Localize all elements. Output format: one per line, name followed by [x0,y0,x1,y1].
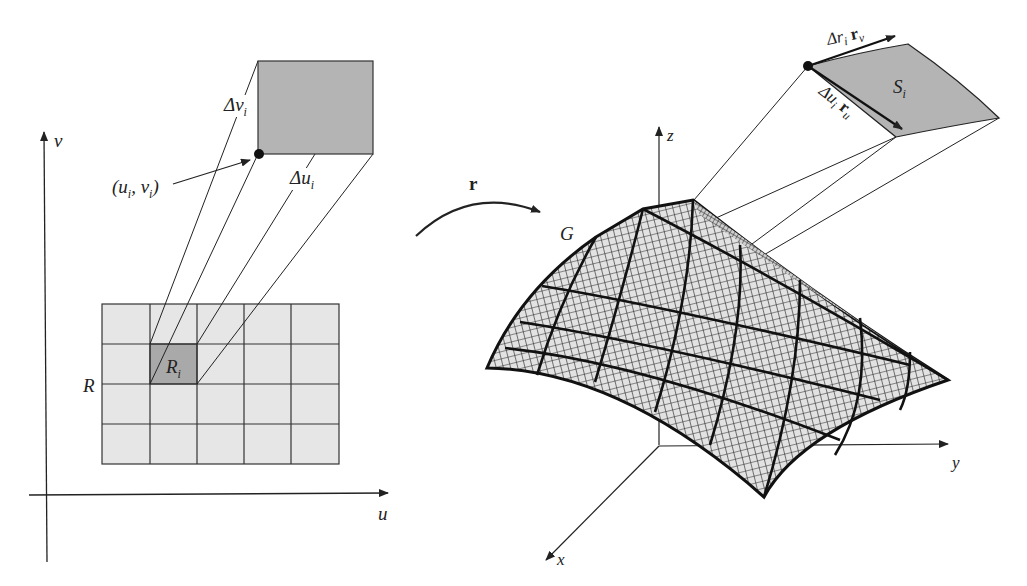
surface-area-diagram: v u R Ri Δvi [0,0,1027,586]
x-axis [546,446,659,560]
point-pointer-arrow [173,160,250,184]
mapping-r: r [416,173,540,236]
enlarged-cell [258,61,373,154]
y-axis-label: y [950,453,960,472]
region-R-label: R [82,375,95,396]
uv-plane: v u R Ri Δvi [29,61,388,562]
surface-G-label: G [560,223,574,244]
x-axis-label: x [556,550,565,569]
v-axis [44,132,47,562]
u-axis-label: u [378,503,388,524]
mapping-arrow [416,203,540,236]
v-axis-label: v [54,130,63,151]
point-ui-vi [254,149,264,159]
mapping-label: r [469,173,478,194]
surface-G [487,200,948,497]
u-axis [29,493,388,495]
point-label: (ui, vi) [112,176,159,201]
region-R-grid [102,304,339,464]
xyz-space: z y x [487,22,999,569]
z-axis-label: z [666,126,674,145]
